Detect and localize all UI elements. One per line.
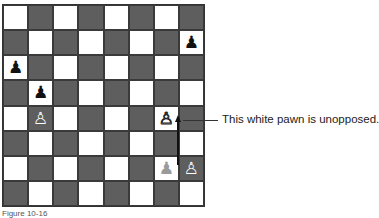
square-b1 [28,181,53,206]
square-e6 [104,55,129,80]
square-c3 [53,131,78,156]
pawn-move-arrow [177,120,179,165]
square-b5: ♟ [28,80,53,105]
square-d4 [78,106,103,131]
square-g7 [154,30,179,55]
square-e7 [104,30,129,55]
square-d7 [78,30,103,55]
white-pawn-icon: ♙ [33,110,48,127]
square-f2 [129,156,154,181]
black-pawn-icon: ♟ [184,34,199,51]
square-g2: ♟ [154,156,179,181]
square-c2 [53,156,78,181]
annotation-leader-line [183,120,218,121]
square-f6 [129,55,154,80]
square-a5 [3,80,28,105]
square-f7 [129,30,154,55]
square-e5 [104,80,129,105]
white-pawn-icon: ♙ [159,110,174,127]
square-f4 [129,106,154,131]
figure-caption: Figure 10-16 [2,209,47,218]
square-b3 [28,131,53,156]
square-b2 [28,156,53,181]
square-e1 [104,181,129,206]
square-h3 [179,131,204,156]
square-c6 [53,55,78,80]
ghost-pawn-icon: ♟ [159,160,174,177]
square-c5 [53,80,78,105]
square-h8 [179,5,204,30]
chess-board: ♟♟♟♙♙♟♙ [2,4,205,207]
square-d1 [78,181,103,206]
square-a3 [3,131,28,156]
square-d8 [78,5,103,30]
black-pawn-icon: ♟ [8,59,23,76]
square-b7 [28,30,53,55]
square-h6 [179,55,204,80]
square-g1 [154,181,179,206]
square-a8 [3,5,28,30]
square-c7 [53,30,78,55]
square-b8 [28,5,53,30]
arrowhead-icon [175,115,181,122]
square-f3 [129,131,154,156]
square-e3 [104,131,129,156]
square-c8 [53,5,78,30]
black-pawn-icon: ♟ [33,84,48,101]
square-h4 [179,106,204,131]
square-d5 [78,80,103,105]
square-h2: ♙ [179,156,204,181]
square-d3 [78,131,103,156]
square-h1 [179,181,204,206]
square-c1 [53,181,78,206]
square-a7 [3,30,28,55]
annotation-text: This white pawn is unopposed. [222,113,379,125]
square-a6: ♟ [3,55,28,80]
square-e2 [104,156,129,181]
square-b4: ♙ [28,106,53,131]
square-g6 [154,55,179,80]
square-a4 [3,106,28,131]
square-h5 [179,80,204,105]
square-b6 [28,55,53,80]
square-g5 [154,80,179,105]
square-a2 [3,156,28,181]
square-f1 [129,181,154,206]
square-f8 [129,5,154,30]
square-e4 [104,106,129,131]
square-a1 [3,181,28,206]
square-d2 [78,156,103,181]
square-g3 [154,131,179,156]
square-h7: ♟ [179,30,204,55]
square-f5 [129,80,154,105]
square-c4 [53,106,78,131]
square-e8 [104,5,129,30]
square-g8 [154,5,179,30]
square-d6 [78,55,103,80]
white-pawn-icon: ♙ [184,160,199,177]
